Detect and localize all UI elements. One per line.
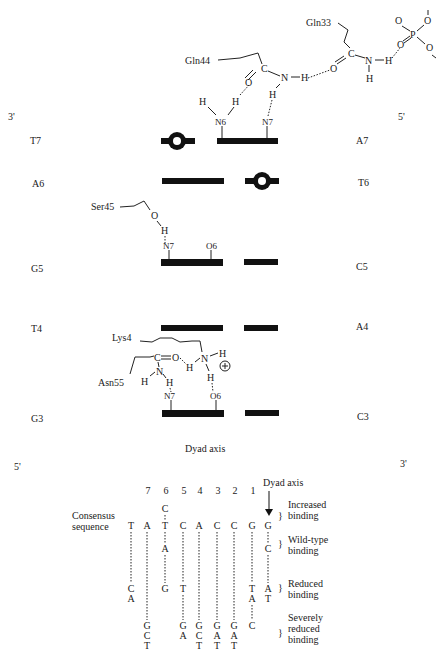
reduced-binding-base: T	[180, 583, 186, 594]
atom-O6-G3: O6	[210, 391, 221, 401]
base-bar-C5	[244, 259, 278, 265]
gln33-sidechain	[338, 23, 350, 48]
atom-H-N6-right: H	[232, 96, 239, 107]
residue-lys4: Lys4	[112, 332, 131, 343]
atom-H-ser45: H	[161, 225, 168, 236]
residue-gln33: Gln33	[306, 17, 331, 28]
atom-O-gln33: O	[330, 63, 337, 74]
position-number: 2	[233, 485, 238, 496]
base-label-G3: G3	[31, 413, 43, 424]
consensus-base: T	[128, 520, 134, 531]
hbond-asn55-lys4	[180, 358, 186, 364]
consensus-base: A	[195, 520, 203, 531]
atom-H2-gln33: H	[366, 73, 373, 84]
atom-H-N7-top: H	[269, 89, 276, 100]
atom-N-gln33: N	[365, 55, 372, 66]
consensus-label-line1: Consensus	[72, 510, 115, 521]
residue-asn55: Asn55	[98, 377, 124, 388]
bond-p-o-top	[402, 26, 410, 31]
atom-H-asn55-left: H	[141, 376, 148, 387]
consensus-base: T	[162, 520, 168, 531]
position-number: 7	[146, 485, 151, 496]
base-bar-G3	[162, 410, 224, 417]
atom-N-asn55: N	[156, 366, 163, 377]
atom-C-asn55: C	[154, 352, 161, 363]
positive-charge-icon	[220, 361, 230, 371]
base-label-C5: C5	[356, 261, 368, 272]
base-label-C3: C3	[357, 411, 369, 422]
base-bar-C3	[245, 410, 279, 416]
severely-reduced-binding-base: T	[144, 640, 150, 651]
consensus-base: C	[231, 520, 238, 531]
atom-N-gln44: N	[281, 72, 288, 83]
category-increased-line2: binding	[288, 510, 319, 521]
dyad-axis-label-lower: Dyad axis	[263, 477, 303, 488]
atom-N-lys4: N	[201, 353, 208, 364]
atom-N7-A7: N7	[262, 117, 273, 127]
base-bar-A6	[162, 178, 224, 184]
base-label-G5: G5	[31, 263, 43, 274]
consensus-base: G	[248, 520, 255, 531]
dyad-axis-arrow	[265, 491, 273, 516]
reduced-binding-base: G	[161, 583, 168, 594]
reduced-binding-base: A	[127, 593, 135, 604]
base-label-A7: A7	[356, 135, 368, 146]
position-number: 6	[164, 485, 169, 496]
category-increased: } Increased binding	[278, 499, 326, 521]
atom-H-lys4-right: H	[219, 348, 226, 359]
bond-p-o-double-b	[404, 38, 411, 43]
atom-H-N6-left: H	[199, 96, 206, 107]
hbond-N7-gln44	[268, 100, 272, 116]
atom-N7-G3: N7	[164, 391, 175, 401]
base-bar-G5	[161, 259, 223, 266]
position-number: 1	[251, 485, 256, 496]
consensus-base: A	[143, 520, 151, 531]
bond-h-n6-a	[208, 107, 216, 115]
atom-H-lys4-left: H	[186, 362, 193, 373]
dna-protein-contact-diagram: 3' 5' 5' 3' T7 A7 A6 T6 G5 C5 T4 A4 G3 C…	[0, 0, 436, 661]
atom-O-gln44: O	[245, 77, 252, 88]
lys4-sidechain	[140, 338, 202, 352]
category-reduced-line1: Reduced	[288, 578, 323, 589]
category-reduced-line2: binding	[288, 589, 319, 600]
atom-H-lys4-bottom: H	[207, 372, 214, 383]
sequence-variant-grid: TCAAGCTTCAGCTGAAGCTCGATCGATGTACGCAT	[127, 503, 272, 651]
category-severe-line1: Severely	[288, 612, 323, 623]
atom-O-ser45: O	[151, 210, 158, 221]
severely-reduced-binding-base: C	[249, 620, 256, 631]
category-wild-type-line1: Wild-type	[288, 534, 329, 545]
brace-icon: }	[278, 582, 283, 593]
consensus-base: C	[180, 520, 187, 531]
ser45-sidechain	[120, 201, 150, 210]
base-bar-T4	[161, 325, 223, 331]
category-severe: } Severely reduced binding	[278, 612, 323, 645]
consensus-label-line2: sequence	[72, 521, 109, 532]
category-increased-line1: Increased	[288, 499, 326, 510]
thymine-methyl-ring-T6	[245, 172, 279, 190]
consensus-base: C	[214, 520, 221, 531]
base-bar-A7	[217, 138, 278, 144]
severely-reduced-binding-base: T	[231, 640, 237, 651]
strand-end-right-bottom: 3'	[400, 458, 407, 469]
bond-n-h-lys4	[210, 353, 218, 356]
atom-H-gln44: H	[301, 72, 308, 83]
sequence-position-numbers: 7654321	[146, 485, 256, 496]
phosphate-O-right-top: O	[424, 15, 431, 26]
category-reduced: } Reduced binding	[278, 578, 323, 600]
severely-reduced-binding-base: A	[179, 630, 187, 641]
bond-p-o-right-top	[417, 25, 424, 31]
hbond-gln44-gln33	[308, 70, 330, 78]
increased-binding-base: C	[162, 503, 169, 514]
bond-c-o2-gln33	[335, 56, 344, 62]
wild-type-binding-base: C	[265, 543, 272, 554]
brace-icon: }	[278, 538, 283, 549]
position-number: 4	[198, 485, 203, 496]
category-severe-line3: binding	[288, 634, 319, 645]
atom-O-asn55: O	[172, 352, 179, 363]
atom-C-gln33: C	[348, 48, 355, 59]
bond-c-n-gln44	[268, 71, 280, 76]
base-label-T4: T4	[31, 323, 42, 334]
bond-p-o-right-bottom	[417, 37, 425, 44]
severely-reduced-binding-base: T	[196, 640, 202, 651]
bond-n-h2-lys4	[195, 358, 200, 362]
